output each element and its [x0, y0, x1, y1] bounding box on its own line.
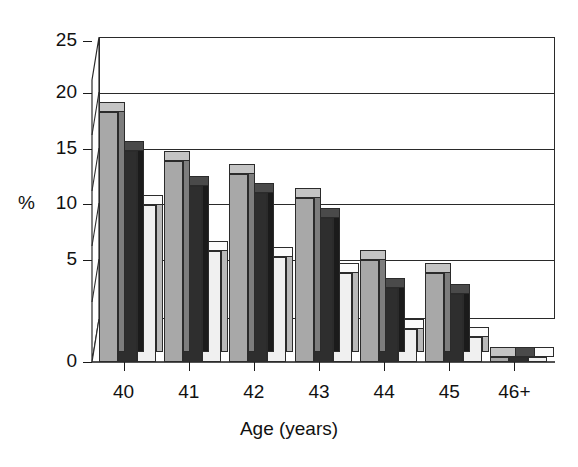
bar-side-face — [379, 250, 386, 352]
bar-side-face — [286, 247, 293, 352]
x-tick-mark-46+ — [514, 362, 515, 371]
x-tick-label-42: 42 — [226, 381, 282, 403]
x-tick-mark-45 — [449, 362, 450, 371]
bar-side-face — [398, 278, 405, 352]
bar-top-face — [99, 102, 125, 112]
bar-front-face — [528, 357, 547, 362]
bar-top-face — [229, 164, 255, 174]
x-tick-label-40: 40 — [96, 381, 152, 403]
bar-top-face — [490, 347, 516, 357]
bar-top-face — [425, 263, 451, 273]
bar-top-face — [295, 188, 321, 198]
bar-side-face — [137, 141, 144, 352]
bar-top-face — [164, 151, 190, 161]
x-tick-mark-41 — [189, 362, 190, 371]
x-tick-mark-40 — [124, 362, 125, 371]
bar-side-face — [267, 183, 274, 352]
bar-side-face — [221, 241, 228, 352]
bar-side-face — [333, 208, 340, 352]
bar-front-face — [295, 198, 314, 362]
bar-side-face — [156, 195, 163, 352]
bar-front-face — [509, 357, 528, 362]
bar-side-face — [314, 188, 321, 352]
bar-front-face — [229, 174, 248, 362]
bar-side-face — [202, 176, 209, 352]
bar-top-face — [360, 250, 386, 260]
x-axis-title: Age (years) — [0, 418, 578, 440]
x-tick-label-46+: 46+ — [486, 381, 542, 403]
bar-side-face — [118, 102, 125, 352]
x-tick-mark-42 — [254, 362, 255, 371]
bar-front-face — [99, 112, 118, 362]
bar-front-face — [425, 273, 444, 362]
bar-side-face — [248, 164, 255, 352]
bar-side-face — [463, 284, 470, 352]
x-tick-label-43: 43 — [291, 381, 347, 403]
x-tick-label-44: 44 — [356, 381, 412, 403]
bar-side-face — [352, 263, 359, 352]
bar-side-face — [444, 263, 451, 352]
bar-chart: % 25 20 15 10 5 0 40414243444546+ Age (y… — [0, 0, 578, 467]
bar-front-face — [490, 357, 509, 362]
x-tick-label-41: 41 — [161, 381, 217, 403]
bar-side-face — [183, 151, 190, 352]
x-tick-label-45: 45 — [421, 381, 477, 403]
bar-front-face — [164, 161, 183, 362]
x-tick-mark-44 — [384, 362, 385, 371]
bar-front-face — [360, 260, 379, 362]
x-tick-mark-43 — [319, 362, 320, 371]
